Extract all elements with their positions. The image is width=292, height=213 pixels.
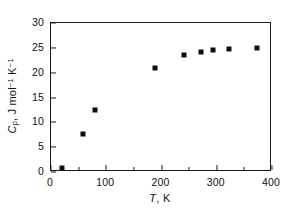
y-tick-label: 15 xyxy=(32,91,44,103)
y-axis-separator: , xyxy=(6,114,18,121)
y-tick-major xyxy=(51,47,56,48)
data-point xyxy=(60,166,65,171)
y-tick-major xyxy=(51,171,56,172)
x-tick-major xyxy=(161,165,162,170)
y-axis-unit-second: K xyxy=(6,67,18,78)
y-axis-unit-main: J mol xyxy=(6,87,18,114)
y-tick-label: 5 xyxy=(38,140,44,152)
x-tick-major xyxy=(216,165,217,170)
x-tick-label: 400 xyxy=(262,176,280,188)
y-tick-major xyxy=(51,22,56,23)
y-tick-major xyxy=(51,97,56,98)
x-axis-title: T, K xyxy=(149,192,170,204)
x-tick-label: 0 xyxy=(47,176,53,188)
y-tick-major xyxy=(51,122,56,123)
y-axis-exponent-2: −1 xyxy=(6,58,15,67)
x-axis-separator: , xyxy=(156,192,163,204)
data-point xyxy=(211,48,216,53)
y-tick-label: 25 xyxy=(32,41,44,53)
data-point xyxy=(153,66,158,71)
x-tick-minor xyxy=(133,167,134,170)
x-axis-unit: K xyxy=(163,192,171,204)
x-tick-minor xyxy=(244,167,245,170)
x-tick-major xyxy=(106,165,107,170)
y-tick-label: 20 xyxy=(32,66,44,78)
y-tick-label: 30 xyxy=(32,16,44,28)
y-tick-major xyxy=(51,147,56,148)
y-tick-label: 10 xyxy=(32,115,44,127)
y-axis-symbol: C xyxy=(6,125,18,133)
y-tick-label: 0 xyxy=(38,165,44,177)
x-tick-major xyxy=(50,165,51,170)
y-tick-major xyxy=(51,72,56,73)
x-tick-minor xyxy=(189,167,190,170)
data-series-layer xyxy=(51,23,270,170)
x-tick-label: 100 xyxy=(96,176,114,188)
y-axis-exponent-1: −1 xyxy=(6,78,15,87)
data-point xyxy=(255,46,260,51)
x-tick-label: 300 xyxy=(207,176,225,188)
data-point xyxy=(199,49,204,54)
data-point xyxy=(226,46,231,51)
x-tick-minor xyxy=(78,167,79,170)
x-tick-major xyxy=(271,165,272,170)
figure-heat-capacity-plot: 0100200300400 051015202530 T, K Cp, J mo… xyxy=(0,0,292,213)
data-point xyxy=(182,52,187,57)
y-axis-symbol-subscript: p xyxy=(10,121,19,125)
x-tick-label: 200 xyxy=(151,176,169,188)
plot-area xyxy=(50,22,271,171)
x-axis-symbol: T xyxy=(149,192,156,204)
data-point xyxy=(81,131,86,136)
data-point xyxy=(93,108,98,113)
y-axis-title: Cp, J mol−1 K−1 xyxy=(6,58,19,133)
